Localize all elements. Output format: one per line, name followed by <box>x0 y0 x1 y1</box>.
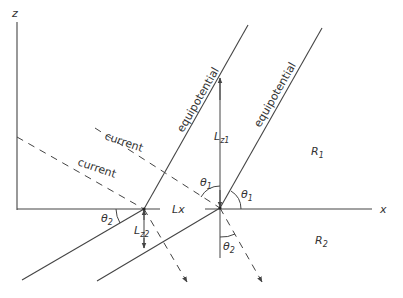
lz2-label: Lz2 <box>134 224 149 239</box>
theta2-label-b: θ2 <box>223 240 235 255</box>
point-a <box>142 207 145 210</box>
lx-label: Lx <box>172 203 185 216</box>
equipotential-line-right <box>220 28 322 208</box>
theta1-label-a: θ1 <box>200 176 212 191</box>
equipotential-label-right: equipotential <box>251 60 299 129</box>
current-refracted-a <box>144 209 187 282</box>
equipotential-label-left: equipotential <box>174 65 222 134</box>
equipotential-line-left-lower <box>22 209 144 280</box>
z-axis-label: z <box>11 7 18 20</box>
theta2-arc-a <box>116 209 120 223</box>
theta2-arc-b <box>220 234 235 237</box>
equipotential-line-left <box>144 25 248 209</box>
current-label-upper: current <box>103 130 145 155</box>
region-r2-label: R2 <box>315 234 328 249</box>
theta1-arc-b <box>231 191 241 209</box>
refraction-diagram: z x Lx equipotential equipotential Lz1 L… <box>0 0 403 298</box>
theta1-label-b: θ1 <box>241 188 253 203</box>
current-label-lower: current <box>76 156 118 181</box>
equipotential-line-right-lower <box>97 208 220 281</box>
lz1-label: Lz1 <box>214 130 229 145</box>
region-r1-label: R1 <box>311 145 324 160</box>
theta2-label-a: θ2 <box>101 212 113 227</box>
point-b <box>218 206 221 209</box>
x-axis-label: x <box>379 203 387 216</box>
